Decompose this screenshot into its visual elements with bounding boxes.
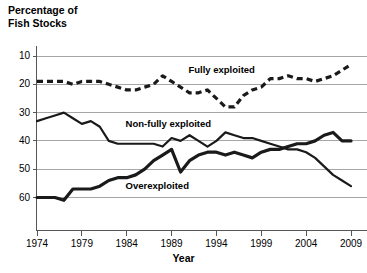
x-tick-label-1984: 1984	[107, 238, 147, 249]
y-tick-label-40: 30	[4, 107, 30, 118]
y-tick-label-20: 50	[4, 163, 30, 174]
fish-stocks-line-chart: Percentage ofFish Stocks 605040302010 19…	[0, 0, 367, 273]
series-label-non-fully-exploited: Non-fully exploited	[125, 118, 213, 129]
x-axis-title: Year	[0, 252, 367, 264]
x-tick-label-1994: 1994	[196, 238, 236, 249]
x-tick-label-1979: 1979	[62, 238, 102, 249]
x-tick-label-2004: 2004	[286, 238, 326, 249]
series-line-overexploited	[37, 132, 351, 200]
plot-canvas	[0, 0, 367, 273]
x-tick-label-1999: 1999	[241, 238, 281, 249]
series-label-fully-exploited: Fully exploited	[187, 64, 256, 75]
x-tick-label-2009: 2009	[331, 238, 367, 249]
x-tick-label-1974: 1974	[17, 238, 57, 249]
y-tick-label-30: 40	[4, 135, 30, 146]
y-tick-label-60: 10	[4, 50, 30, 61]
y-tick-label-50: 20	[4, 78, 30, 89]
x-tick-label-1989: 1989	[152, 238, 192, 249]
series-label-overexploited: Overexploited	[125, 180, 190, 191]
y-tick-label-10: 60	[4, 192, 30, 203]
